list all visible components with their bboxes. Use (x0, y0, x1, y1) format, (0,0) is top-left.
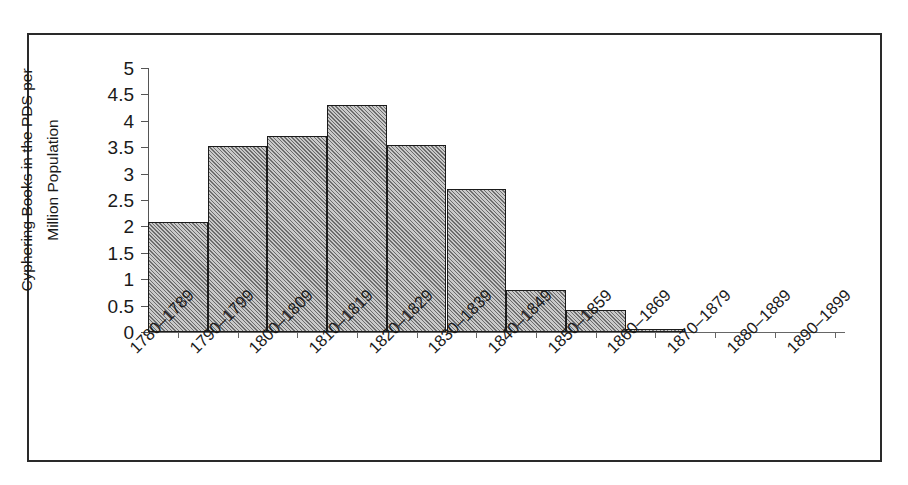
x-axis-tick (655, 332, 656, 338)
plot-area: 00.511.522.533.544.55 1780–17891790–1799… (148, 68, 845, 332)
y-axis-tick (141, 306, 148, 307)
x-axis-tick (596, 332, 597, 338)
figure-canvas: Cyphering Books in the PDS per Million P… (0, 0, 908, 485)
y-axis-tick (141, 253, 148, 254)
x-axis-tick (297, 332, 298, 338)
y-axis-title-line-2: Million Population (40, 55, 66, 305)
x-axis-tick (357, 332, 358, 338)
x-axis-tick (417, 332, 418, 338)
x-axis-tick (775, 332, 776, 338)
y-axis-title-line-1: Cyphering Books in the PDS per (14, 55, 40, 305)
x-axis-tick (476, 332, 477, 338)
y-axis-tick (141, 279, 148, 280)
y-axis-tick (141, 147, 148, 148)
x-axis-tick (238, 332, 239, 338)
y-axis-tick (141, 200, 148, 201)
y-axis-tick (141, 121, 148, 122)
y-axis-title: Cyphering Books in the PDS per Million P… (14, 55, 70, 305)
y-axis-tick (141, 226, 148, 227)
x-axis-tick (536, 332, 537, 338)
y-axis-tick (141, 68, 148, 69)
x-axis-tick (715, 332, 716, 338)
x-axis-tick (835, 332, 836, 338)
y-axis-tick (141, 174, 148, 175)
y-axis-tick (141, 94, 148, 95)
x-axis-tick (178, 332, 179, 338)
